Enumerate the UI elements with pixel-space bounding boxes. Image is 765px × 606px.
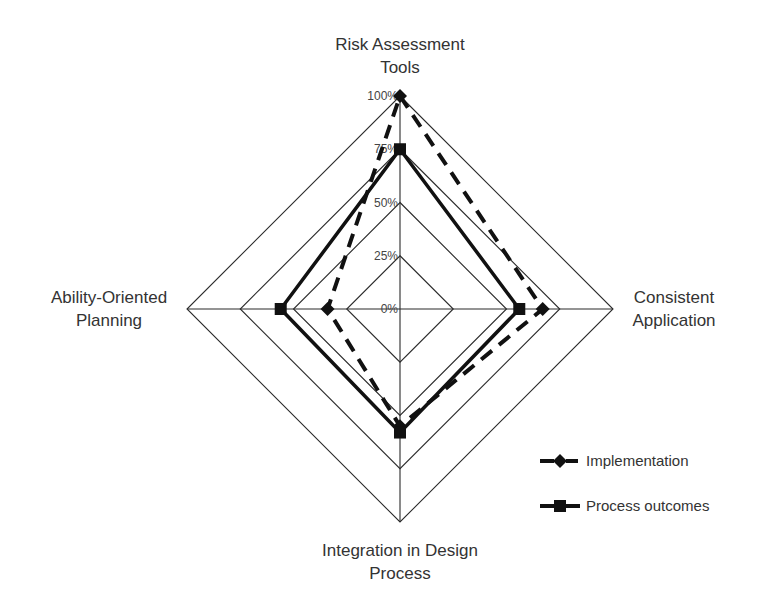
series-layer	[275, 89, 550, 439]
series-line-implementation	[328, 96, 543, 426]
legend-label: Implementation	[586, 452, 689, 469]
tick-labels: 0%25%50%75%100%	[367, 89, 398, 316]
data-point-square	[394, 143, 406, 155]
radar-chart: 0%25%50%75%100% Risk AssessmentToolsCons…	[0, 0, 765, 606]
legend-marker-square	[554, 500, 566, 512]
axis-label-left: Planning	[76, 311, 142, 330]
data-point-square	[394, 427, 406, 439]
legend-item: Implementation	[540, 452, 689, 469]
tick-label: 50%	[374, 196, 398, 210]
legend-item: Process outcomes	[540, 497, 709, 514]
data-point-square	[513, 303, 525, 315]
axis-label-right: Application	[632, 311, 715, 330]
legend-label: Process outcomes	[586, 497, 709, 514]
tick-label: 25%	[374, 249, 398, 263]
data-point-diamond	[321, 302, 335, 316]
tick-label: 0%	[381, 302, 399, 316]
axis-label-top: Risk Assessment	[335, 35, 465, 54]
axis-label-bottom: Integration in Design	[322, 541, 478, 560]
data-point-square	[275, 303, 287, 315]
axis-label-left: Ability-Oriented	[51, 288, 167, 307]
legend: ImplementationProcess outcomes	[540, 452, 709, 514]
legend-marker-diamond	[553, 454, 567, 468]
axis-label-bottom: Process	[369, 564, 430, 583]
axis-label-right: Consistent	[634, 288, 715, 307]
axis-label-top: Tools	[380, 58, 420, 77]
